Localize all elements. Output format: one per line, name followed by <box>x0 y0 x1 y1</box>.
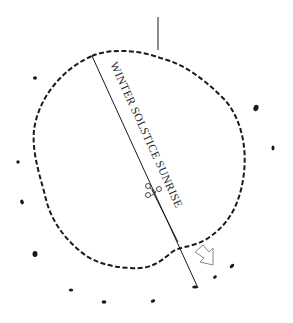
sunrise-direction-arrow-icon <box>195 245 213 265</box>
stone-ring <box>16 76 274 303</box>
figure-symbol-icon <box>146 184 162 198</box>
stone <box>69 289 73 292</box>
diagram-canvas: WINTER SOLSTICE SUNRISE <box>0 0 293 323</box>
solstice-diagram: WINTER SOLSTICE SUNRISE <box>0 0 293 323</box>
stone <box>213 275 218 280</box>
stone <box>16 160 19 163</box>
stone <box>272 146 275 151</box>
stone <box>33 76 37 80</box>
stone <box>19 199 24 205</box>
stone <box>33 251 38 257</box>
stone <box>229 263 235 269</box>
stone <box>192 285 198 288</box>
alignment-line <box>92 56 198 288</box>
stone <box>150 299 155 303</box>
stone <box>253 104 260 112</box>
stone <box>102 300 107 303</box>
alignment-label: WINTER SOLSTICE SUNRISE <box>108 60 185 210</box>
